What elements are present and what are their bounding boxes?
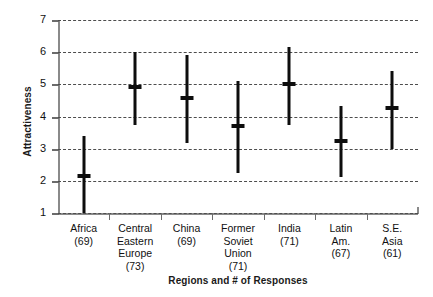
- plot-area: [58, 20, 418, 213]
- mean-marker: [77, 174, 90, 178]
- y-axis-tick-label: 2: [24, 175, 46, 186]
- category-name-line: Union: [212, 247, 263, 260]
- x-axis-category-label: CentralEasternEurope(73): [109, 222, 160, 272]
- category-response-count: (69): [58, 235, 109, 248]
- y-axis-tick-label: 4: [24, 111, 46, 122]
- x-axis-tick: [212, 213, 213, 220]
- mean-marker: [283, 82, 296, 86]
- y-axis-tick-label: 5: [24, 78, 46, 89]
- x-axis-tick: [264, 213, 265, 220]
- category-response-count: (71): [264, 235, 315, 248]
- x-axis-tick: [315, 213, 316, 220]
- x-axis-tick: [367, 213, 368, 220]
- x-axis-category-label: India(71): [264, 222, 315, 247]
- mean-marker: [129, 85, 142, 89]
- category-name-line: Former: [212, 222, 263, 235]
- x-axis-title: Regions and # of Responses: [58, 275, 418, 286]
- category-name-line: Europe: [109, 247, 160, 260]
- category-name-line: Africa: [58, 222, 109, 235]
- gridline: [58, 52, 418, 53]
- y-axis-tick-label: 7: [24, 14, 46, 25]
- category-name-line: Latin: [315, 222, 366, 235]
- mean-marker: [180, 96, 193, 100]
- x-axis-tick: [109, 213, 110, 220]
- y-axis-tick-label: 3: [24, 143, 46, 154]
- x-axis-category-label: FormerSovietUnion(71): [212, 222, 263, 272]
- category-name-line: China: [161, 222, 212, 235]
- category-response-count: (69): [161, 235, 212, 248]
- x-axis-category-label: S.E.Asia(61): [367, 222, 418, 260]
- category-name-line: Am.: [315, 235, 366, 248]
- x-axis-category-label: China(69): [161, 222, 212, 247]
- category-response-count: (73): [109, 260, 160, 273]
- category-name-line: Central: [109, 222, 160, 235]
- mean-marker: [334, 139, 347, 143]
- category-name-line: Eastern: [109, 235, 160, 248]
- category-name-line: India: [264, 222, 315, 235]
- category-name-line: S.E.: [367, 222, 418, 235]
- gridline: [58, 213, 418, 214]
- category-response-count: (61): [367, 247, 418, 260]
- y-axis-tick-label: 6: [24, 46, 46, 57]
- category-name-line: Asia: [367, 235, 418, 248]
- category-response-count: (71): [212, 260, 263, 273]
- chart-figure: Attractiveness 1234567 Africa(69)Central…: [0, 0, 433, 297]
- x-axis-category-label: Africa(69): [58, 222, 109, 247]
- gridline: [58, 181, 418, 182]
- mean-marker: [386, 106, 399, 110]
- y-axis-tick-label: 1: [24, 207, 46, 218]
- category-name-line: Soviet: [212, 235, 263, 248]
- mean-marker: [232, 124, 245, 128]
- x-axis-category-label: LatinAm.(67): [315, 222, 366, 260]
- x-axis-tick: [161, 213, 162, 220]
- gridline: [58, 20, 418, 21]
- category-response-count: (67): [315, 247, 366, 260]
